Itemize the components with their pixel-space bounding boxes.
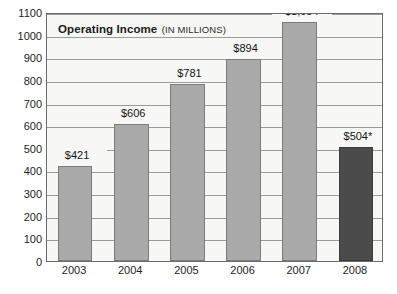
x-tick-label-2008: 2008: [327, 265, 383, 276]
y-axis: 110010009008007006005004003002001000: [0, 13, 42, 262]
bar-2003: [58, 166, 93, 261]
x-axis: 200320042005200620072008: [46, 265, 383, 287]
y-tick-label: 800: [0, 75, 42, 86]
bar-2007: [282, 22, 317, 261]
bar-2008: [339, 147, 374, 261]
y-tick-label: 600: [0, 121, 42, 132]
bar-value-label-2005: $781: [159, 67, 219, 80]
operating-income-bar-chart: 110010009008007006005004003002001000 $42…: [0, 0, 397, 294]
bar-2006: [226, 59, 261, 261]
y-tick-label: 900: [0, 53, 42, 64]
bar-value-label-2007: $1,054: [272, 13, 332, 18]
y-tick-label: 200: [0, 211, 42, 222]
y-tick-label: 300: [0, 189, 42, 200]
x-tick-label-2007: 2007: [271, 265, 327, 276]
chart-title-main: Operating Income: [58, 23, 157, 35]
y-tick-label: 400: [0, 166, 42, 177]
y-tick-label: 1100: [0, 8, 42, 19]
bars-group: $421$606$781$894$1,054$504*: [47, 14, 382, 261]
y-tick-label: 1000: [0, 30, 42, 41]
x-tick-label-2005: 2005: [158, 265, 214, 276]
y-tick-label: 500: [0, 143, 42, 154]
x-tick-label-2003: 2003: [46, 265, 102, 276]
chart-title: Operating Income (IN MILLIONS): [58, 20, 226, 36]
bar-value-label-2003: $421: [47, 149, 107, 162]
bar-value-label-2004: $606: [103, 107, 163, 120]
chart-title-subtitle: (IN MILLIONS): [162, 24, 226, 35]
y-tick-label: 700: [0, 98, 42, 109]
bar-value-label-2008: $504*: [328, 130, 383, 143]
y-tick-label: 0: [0, 257, 42, 268]
bar-2004: [114, 124, 149, 261]
plot-area: $421$606$781$894$1,054$504* Operating In…: [46, 13, 383, 262]
x-tick-label-2004: 2004: [102, 265, 158, 276]
x-tick-label-2006: 2006: [215, 265, 271, 276]
bar-value-label-2006: $894: [216, 42, 276, 55]
bar-2005: [170, 84, 205, 261]
y-tick-label: 100: [0, 234, 42, 245]
